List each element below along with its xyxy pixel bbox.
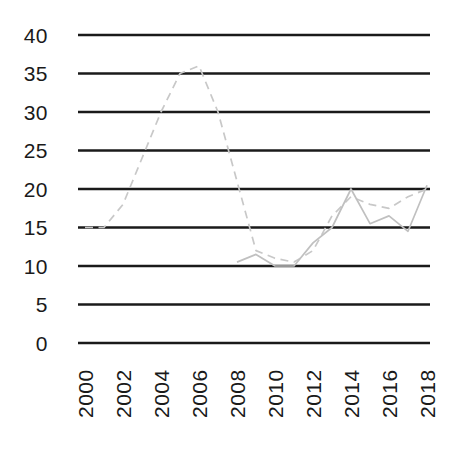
series-group [85,66,427,266]
dashed-series [85,66,427,262]
x-axis-tick-labels: 2000200220042006200820102012201420162018 [74,369,439,418]
x-axis-tick-label: 2012 [302,369,325,418]
y-axis-tick-label: 30 [24,101,48,124]
x-axis-tick-label: 2002 [112,369,135,418]
y-axis-tick-label: 25 [24,139,48,162]
y-axis-tick-label: 0 [36,332,48,355]
line-chart-canvas: 0510152025303540200020022004200620082010… [0,0,453,450]
x-axis-tick-label: 2018 [416,369,439,418]
x-axis-tick-label: 2004 [150,369,173,418]
y-axis-tick-label: 10 [24,255,48,278]
x-axis-tick-label: 2016 [378,369,401,418]
y-axis-tick-label: 40 [24,24,48,47]
x-axis-tick-label: 2014 [340,369,363,418]
x-axis-tick-label: 2008 [226,369,249,418]
x-axis-tick-label: 2000 [74,369,97,418]
y-axis-tick-labels: 0510152025303540 [24,24,48,355]
x-axis-tick-label: 2006 [188,369,211,418]
x-axis-tick-label: 2010 [264,369,287,418]
solid-series [237,185,427,266]
gridlines [78,35,430,343]
chart-figure: 0510152025303540200020022004200620082010… [0,0,453,450]
y-axis-tick-label: 5 [36,293,48,316]
y-axis-tick-label: 35 [24,62,48,85]
y-axis-tick-label: 15 [24,216,48,239]
y-axis-tick-label: 20 [24,178,48,201]
